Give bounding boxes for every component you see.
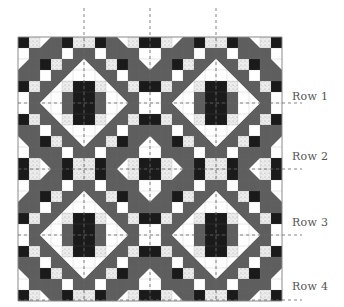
row-label-3: Row 3 [292, 216, 328, 229]
row-label-2: Row 2 [292, 150, 328, 163]
row-label-1: Row 1 [292, 90, 328, 103]
row-label-4: Row 4 [292, 280, 328, 293]
